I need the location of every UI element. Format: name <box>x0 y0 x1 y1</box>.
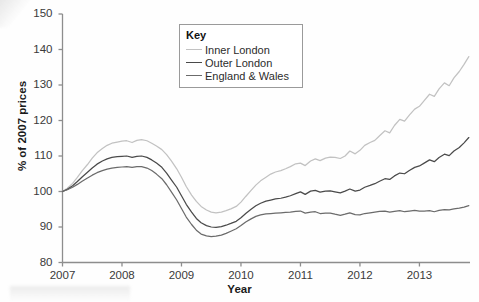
legend-item: England & Wales <box>186 69 296 82</box>
legend-color-swatch <box>186 62 202 63</box>
legend-color-swatch <box>186 75 202 76</box>
legend-item-label: England & Wales <box>205 70 289 82</box>
y-tick-label: 80 <box>19 256 53 268</box>
x-tick-label: 2009 <box>156 269 206 281</box>
y-tick-label: 150 <box>19 7 53 19</box>
x-tick-label: 2011 <box>275 269 325 281</box>
legend-item-label: Inner London <box>205 44 270 56</box>
x-axis-title: Year <box>0 283 479 295</box>
y-axis-title: % of 2007 prices <box>16 71 28 181</box>
legend-color-swatch <box>186 49 202 50</box>
x-tick-label: 2008 <box>97 269 147 281</box>
legend-item: Outer London <box>186 56 296 69</box>
chart-legend: Key Inner LondonOuter LondonEngland & Wa… <box>179 24 303 88</box>
x-tick-label: 2012 <box>335 269 385 281</box>
x-tick-label: 2010 <box>216 269 266 281</box>
y-tick-label: 90 <box>19 220 53 232</box>
legend-entries: Inner LondonOuter LondonEngland & Wales <box>186 43 296 82</box>
legend-item: Inner London <box>186 43 296 56</box>
y-tick-label: 100 <box>19 185 53 197</box>
legend-item-label: Outer London <box>205 57 272 69</box>
legend-title: Key <box>186 29 296 41</box>
x-tick-label: 2013 <box>394 269 444 281</box>
y-tick-label: 140 <box>19 43 53 55</box>
x-tick-label: 2007 <box>38 269 88 281</box>
line-chart: 1501401301201101009080 20072008200920102… <box>0 0 479 302</box>
